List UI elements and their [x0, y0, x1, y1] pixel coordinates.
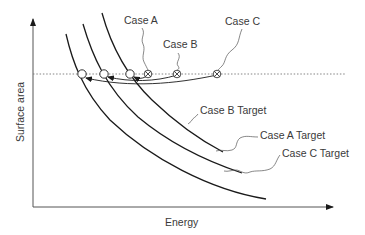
- target-point-case-c: [78, 70, 86, 78]
- label-case-a-target: Case A Target: [260, 129, 325, 141]
- leader-case-a-target: [216, 136, 258, 151]
- label-case-b-target: Case B Target: [200, 104, 266, 116]
- target-point-case-a: [100, 70, 108, 78]
- y-axis-label: Surface area: [14, 82, 26, 142]
- curve-case-b-target: [102, 13, 223, 152]
- target-points: [78, 70, 134, 78]
- case-c-point-icon: [213, 70, 221, 78]
- label-case-c-target: Case C Target: [282, 147, 349, 159]
- energy-surface-area-diagram: Energy Surface area: [0, 0, 365, 235]
- x-axis-label: Energy: [165, 216, 199, 228]
- leader-case-b-target: [188, 114, 198, 124]
- leader-case-a: [142, 28, 148, 70]
- leader-case-c-target: [224, 155, 280, 173]
- target-point-case-b: [126, 70, 134, 78]
- leader-case-c: [218, 29, 242, 70]
- case-b-point-icon: [173, 70, 181, 78]
- case-a-point-icon: [144, 70, 152, 78]
- label-case-b: Case B: [163, 38, 197, 50]
- leader-case-b: [177, 53, 179, 70]
- label-case-a: Case A: [124, 14, 158, 26]
- label-case-c: Case C: [225, 15, 260, 27]
